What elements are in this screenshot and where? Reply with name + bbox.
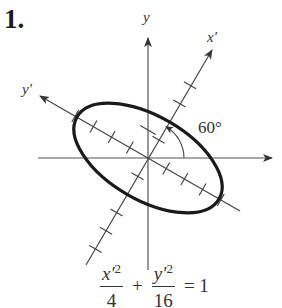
y-axis-label: y [141,9,150,25]
angle-arc [166,127,184,158]
angle-label: 60° [198,118,222,137]
equals-one: = 1 [181,275,212,297]
numerator-y-prime: y′ [154,263,167,284]
numerator-x-prime: x′ [102,263,115,284]
ellipse-equation: x′2 4 + y′2 16 = 1 [100,262,212,308]
denominator-16: 16 [154,287,173,308]
y-prime-axis-label: y′ [20,81,33,97]
fraction-y-prime: y′2 16 [152,262,175,308]
exponent: 2 [115,261,122,276]
plus-sign: + [129,275,146,297]
fraction-x-prime: x′2 4 [100,262,123,308]
denominator-4: 4 [107,287,117,308]
exponent: 2 [166,261,173,276]
y-prime-axis [40,96,240,211]
x-prime-axis-label: x′ [206,29,218,45]
